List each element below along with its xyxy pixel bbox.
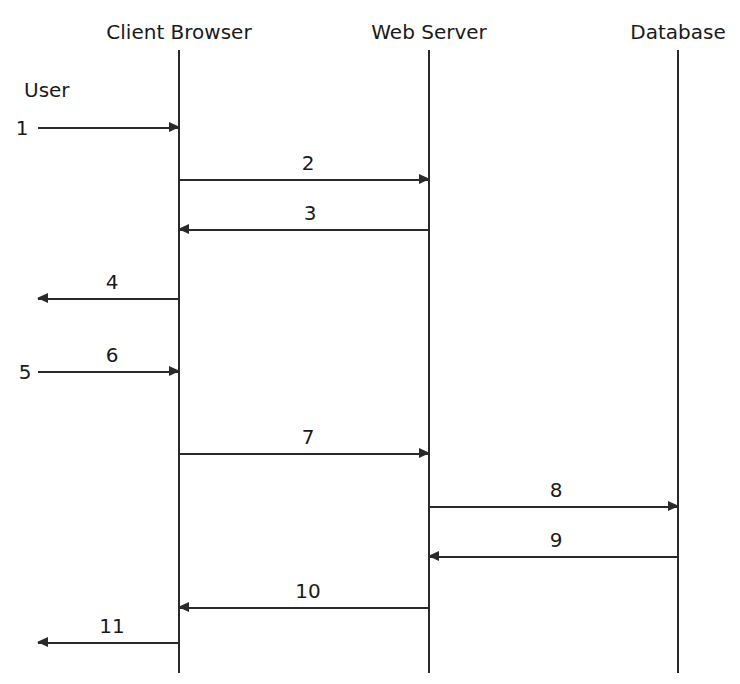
message-arrow-9 bbox=[429, 556, 678, 558]
message-arrow-8 bbox=[429, 506, 678, 508]
message-label-7: 7 bbox=[302, 427, 315, 447]
participant-label-server: Web Server bbox=[371, 22, 487, 42]
message-label-10: 10 bbox=[295, 581, 320, 601]
message-arrow-3 bbox=[179, 229, 429, 231]
participant-label-client: Client Browser bbox=[106, 22, 251, 42]
message-label-4: 4 bbox=[106, 272, 119, 292]
lifeline-client bbox=[178, 50, 180, 673]
arrowhead-right-icon bbox=[668, 501, 679, 511]
arrowhead-left-icon bbox=[178, 602, 189, 612]
actor-label-user: User bbox=[24, 80, 70, 100]
message-label-9: 9 bbox=[550, 530, 563, 550]
arrowhead-right-icon bbox=[169, 366, 180, 376]
message-label-6: 6 bbox=[106, 345, 119, 365]
message-arrow-5 bbox=[38, 371, 179, 373]
message-arrow-2 bbox=[179, 179, 429, 181]
message-arrow-4 bbox=[38, 298, 179, 300]
arrowhead-right-icon bbox=[419, 174, 430, 184]
lifeline-server bbox=[428, 50, 430, 673]
message-arrow-11 bbox=[38, 642, 179, 644]
message-label-5: 5 bbox=[19, 362, 32, 382]
arrowhead-left-icon bbox=[37, 293, 48, 303]
message-label-11: 11 bbox=[99, 616, 124, 636]
arrowhead-right-icon bbox=[419, 448, 430, 458]
arrowhead-left-icon bbox=[428, 551, 439, 561]
arrowhead-left-icon bbox=[178, 224, 189, 234]
message-label-2: 2 bbox=[302, 153, 315, 173]
arrowhead-left-icon bbox=[37, 637, 48, 647]
message-arrow-10 bbox=[179, 607, 429, 609]
arrowhead-right-icon bbox=[169, 122, 180, 132]
message-arrow-7 bbox=[179, 453, 429, 455]
participant-label-database: Database bbox=[630, 22, 725, 42]
message-arrow-1 bbox=[38, 127, 179, 129]
message-label-3: 3 bbox=[304, 203, 317, 223]
message-label-1: 1 bbox=[16, 118, 29, 138]
message-label-8: 8 bbox=[550, 480, 563, 500]
lifeline-database bbox=[677, 50, 679, 673]
